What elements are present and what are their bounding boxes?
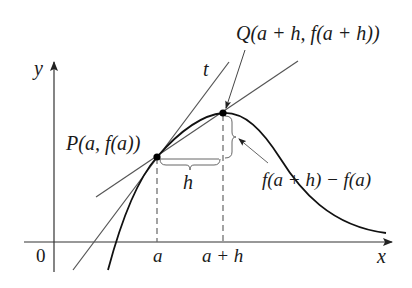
tangent-label: t <box>203 58 209 80</box>
y-axis-label: y <box>32 57 43 80</box>
point-q <box>219 109 226 116</box>
vertical-increment-label: f(a + h) − f(a) <box>262 169 371 191</box>
tick-label-a: a <box>153 245 163 266</box>
x-axis-label: x <box>376 245 386 267</box>
function-curve <box>108 113 386 270</box>
tick-label-a-plus-h: a + h <box>202 245 243 266</box>
point-q-label: Q(a + h, f(a + h)) <box>236 22 380 45</box>
increment-label-arrow <box>239 139 268 163</box>
secant-tangent-diagram: y x 0 a a + h t P(a, f(a)) Q(a + h, f(a … <box>0 0 412 288</box>
h-brace <box>157 159 220 170</box>
vertical-increment-brace <box>225 116 236 158</box>
h-label: h <box>183 171 193 193</box>
origin-label: 0 <box>36 245 46 266</box>
point-p-label: P(a, f(a)) <box>65 132 141 155</box>
point-p <box>153 153 160 160</box>
